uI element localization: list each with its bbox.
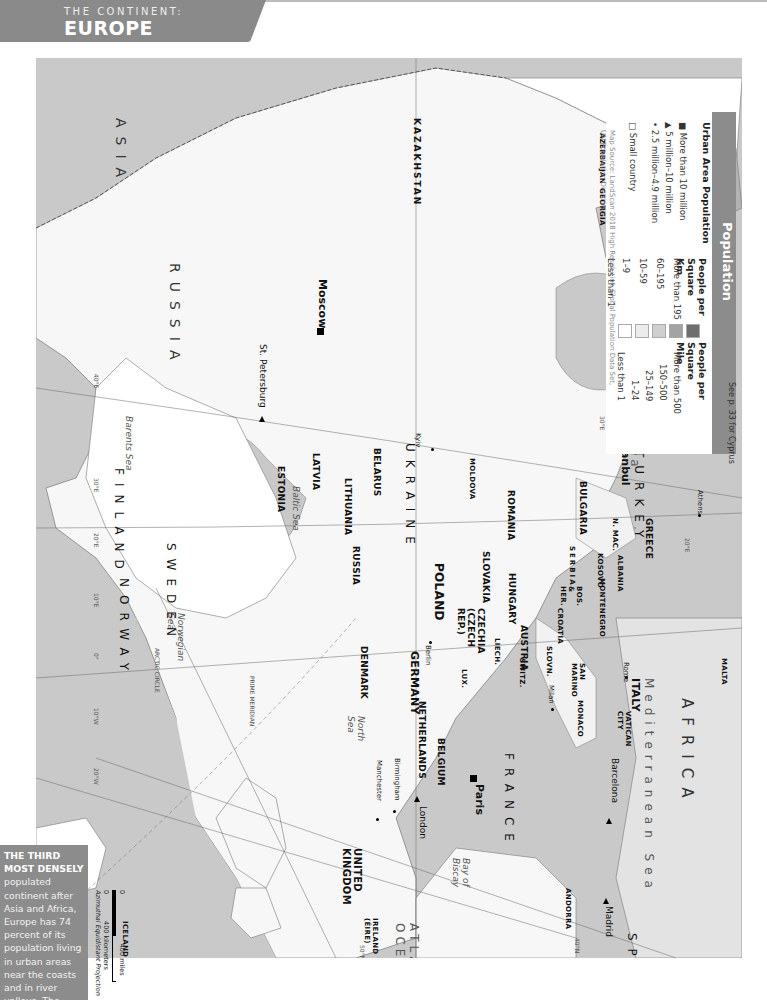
label-graticule-10e: 10°E	[93, 593, 100, 607]
label-lithuania: LITHUANIA	[343, 478, 353, 535]
label-estonia: ESTONIA	[276, 466, 286, 512]
label-monaco: MONACO	[576, 700, 584, 737]
label-san-marino: SAN MARINO	[570, 663, 586, 689]
label-st-petersburg: St. Petersburg	[258, 344, 268, 408]
legend-urban-row-4: □ Small country	[626, 122, 640, 192]
legend-mile-class-4-wrap: 1–24	[628, 380, 642, 400]
legend-mile-class-2: 150–500	[656, 364, 670, 401]
dot-marker-icon: •	[650, 122, 660, 130]
sidebar-body: populated continent after Asia and Afric…	[4, 876, 88, 1000]
label-andorra: ANDORRA	[564, 888, 572, 929]
label-rome: Rome	[622, 662, 630, 682]
label-athens: Athens	[696, 490, 704, 514]
label-belgium: BELGIUM	[436, 738, 446, 786]
projection-label: Azimuthal Equidistant Projection	[94, 890, 102, 996]
label-graticule-50n: 50°N	[359, 945, 366, 958]
header-kicker: THE CONTINENT:	[64, 6, 183, 17]
city-marker-madrid	[603, 898, 609, 904]
sidebar-info-box: THE THIRD MOST DENSELY populated contine…	[0, 845, 88, 1000]
city-marker-milan	[551, 708, 554, 711]
label-graticule-20e: 20°E	[93, 533, 100, 547]
label-latvia: LATVIA	[311, 453, 321, 490]
label-graticule-0: 0°	[93, 653, 100, 660]
legend-urban-row-1: ■ More than 10 million	[676, 122, 690, 220]
legend-km-class-3: 10–59	[636, 258, 650, 284]
legend-urban-row-2: ▲ 5 million–10 million	[662, 122, 676, 214]
label-london: London	[418, 806, 428, 839]
label-arctic-circle: ARCTIC CIRCLE	[154, 648, 161, 693]
legend-swatch-4	[635, 324, 649, 338]
triangle-marker-icon: ▲	[664, 122, 674, 131]
label-luxembourg: LUX.	[460, 669, 468, 688]
label-sweden: SWEDEN	[164, 543, 178, 644]
legend-km-class-3-wrap: 10–59	[636, 258, 650, 284]
label-montenegro: MONTENEGRO	[598, 578, 606, 637]
label-russia-kaliningrad: RUSSIA	[351, 546, 361, 585]
label-spain: SPAIN	[625, 933, 639, 958]
legend-mile-class-4: 1–24	[628, 380, 642, 400]
legend-urban-1-wrap: ■ More than 10 million	[676, 122, 690, 220]
label-croatia: CROATIA	[556, 608, 564, 644]
label-africa: AFRICA	[678, 698, 696, 806]
legend-urban-2-wrap: ▲ 5 million–10 million	[662, 122, 676, 214]
sidebar-text-wrap: THE THIRD MOST DENSELY populated contine…	[4, 849, 88, 1000]
label-berlin: Berlin	[424, 645, 432, 665]
legend-urban-label-3: 2.5 million–4.9 million	[650, 130, 660, 223]
label-finland: FINLAND	[112, 468, 126, 577]
label-ukraine: UKRAINE	[403, 443, 417, 552]
label-vatican-city: VATICAN CITY	[616, 711, 632, 741]
label-graticule-40e: 40°E	[93, 374, 100, 388]
label-bosnia-herzegovina: BOS. & HER.	[559, 586, 583, 610]
label-graticule-30e-south: 30°E	[599, 416, 606, 430]
legend-km-class-1: More than 195	[670, 258, 684, 320]
label-united-kingdom: UNITED KINGDOM	[341, 848, 363, 890]
label-italy: ITALY	[629, 678, 642, 712]
scale-zero: 0	[118, 890, 126, 894]
legend-km-class-1-wrap: More than 195	[670, 258, 684, 320]
label-baltic-sea: Baltic Sea	[291, 486, 301, 531]
cyprus-note: See p. 33 for Cyprus	[727, 382, 736, 464]
label-prime-meridian: PRIME MERIDIAN	[249, 676, 256, 726]
label-graticule-40n: 40°N	[574, 938, 581, 953]
label-kazakhstan: KAZAKHSTAN	[412, 118, 422, 206]
scale-km: 400 kilometers	[102, 921, 110, 970]
scale-miles: 400 miles	[118, 944, 126, 976]
legend-km-class-2-wrap: 60–195	[653, 258, 667, 289]
label-kyiv: Kyiv	[414, 433, 422, 447]
legend-swatch-3	[652, 324, 666, 338]
legend-urban-label-1: More than 10 million	[678, 133, 688, 221]
label-graticule-30e: 30°E	[93, 478, 100, 492]
label-moldova: MOLDOVA	[468, 458, 476, 499]
city-marker-st-petersburg	[259, 416, 265, 422]
map-scale-bar: 0 400 miles 0 400 kilometers Azimuthal E…	[94, 890, 126, 996]
legend-map-source: Map Source: LandScan 2018 High Resolutio…	[598, 130, 616, 385]
legend-mile-class-5: Less than 1	[614, 352, 628, 401]
legend-swatch-1	[686, 324, 700, 338]
label-madrid: Madrid	[604, 906, 614, 937]
legend-swatch-5	[618, 324, 632, 338]
label-denmark: DENMARK	[359, 646, 369, 699]
sidebar-paragraph: THE THIRD MOST DENSELY populated contine…	[4, 849, 88, 1000]
legend-title: Population	[720, 222, 735, 301]
legend-mile-class-1: More than 500	[670, 352, 684, 414]
legend-source-line-1: Map Source: LandScan 2018 High Resolutio…	[607, 130, 616, 385]
label-france: FRANCE	[502, 753, 516, 849]
label-romania: ROMANIA	[506, 490, 516, 540]
legend-urban-label-2: 5 million–10 million	[664, 131, 674, 214]
label-poland: POLAND	[432, 563, 446, 621]
legend-mile-values: More than 500	[670, 352, 684, 414]
label-liechtenstein: LIECH.	[493, 638, 501, 665]
label-bulgaria: BULGARIA	[578, 481, 588, 535]
legend-mile-class-3: 25–149	[642, 370, 656, 401]
page-header-banner: THE CONTINENT: EUROPE	[0, 0, 250, 42]
city-marker-london	[414, 796, 420, 802]
legend-urban-3-wrap: • 2.5 million–4.9 million	[648, 122, 662, 223]
label-graticule-20e-south: 20°E	[684, 538, 691, 552]
label-czechia: CZECHIA (CZECH REP.)	[456, 608, 486, 654]
city-marker-birmingham	[393, 810, 396, 813]
label-netherlands: NETHERLANDS	[417, 701, 427, 779]
label-paris: Paris	[473, 784, 486, 815]
page-title: EUROPE	[64, 17, 153, 39]
label-barcelona: Barcelona	[610, 758, 620, 803]
legend-source-line-2: UN Population Division	[598, 130, 607, 385]
